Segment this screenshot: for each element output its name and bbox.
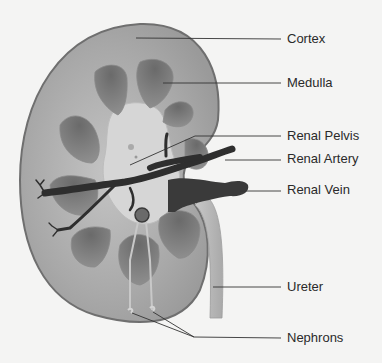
- label-renal-vein: Renal Vein: [287, 182, 350, 198]
- label-ureter: Ureter: [287, 279, 323, 295]
- label-cortex: Cortex: [287, 31, 325, 47]
- label-renal-pelvis: Renal Pelvis: [287, 128, 359, 144]
- label-renal-artery: Renal Artery: [287, 151, 359, 167]
- label-medulla: Medulla: [287, 75, 333, 91]
- label-nephrons: Nephrons: [287, 330, 343, 346]
